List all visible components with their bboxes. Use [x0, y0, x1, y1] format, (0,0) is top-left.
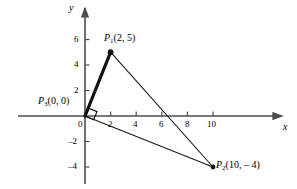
- x-tick-label-6: 6: [159, 120, 164, 129]
- point-label-p2: P2(10, – 4): [216, 160, 260, 172]
- point-marker-p1: [108, 49, 114, 55]
- segment-p3-p1: [85, 52, 111, 116]
- y-tick-label-6: 6: [74, 35, 79, 44]
- y-tick-label-minus4: –4: [68, 162, 77, 171]
- y-tick-label-minus2: –2: [68, 137, 77, 146]
- segment-p1-p2: [111, 52, 213, 167]
- y-axis-label: y: [69, 3, 73, 13]
- p2-coords: (10, – 4): [226, 159, 260, 170]
- point-marker-p2: [211, 165, 216, 170]
- p3-coords: (0, 0): [48, 95, 70, 106]
- x-axis-label: x: [283, 122, 287, 132]
- x-tick-label-8: 8: [185, 120, 190, 129]
- segment-p3-p2: [85, 116, 213, 167]
- point-label-p3: P3(0, 0): [38, 96, 69, 108]
- y-tick-label-4: 4: [74, 60, 79, 69]
- coordinate-plane-figure: y x 0 2 4 6 8 10 6 4 2 –2 –4 P1(2, 5) P2…: [0, 0, 297, 189]
- x-tick-label-0: 0: [78, 120, 83, 129]
- y-tick-label-2: 2: [74, 86, 79, 95]
- x-tick-label-2: 2: [108, 120, 113, 129]
- x-tick-label-10: 10: [207, 120, 216, 129]
- p1-coords: (2, 5): [114, 32, 136, 43]
- x-tick-label-4: 4: [133, 120, 138, 129]
- point-label-p1: P1(2, 5): [104, 33, 135, 45]
